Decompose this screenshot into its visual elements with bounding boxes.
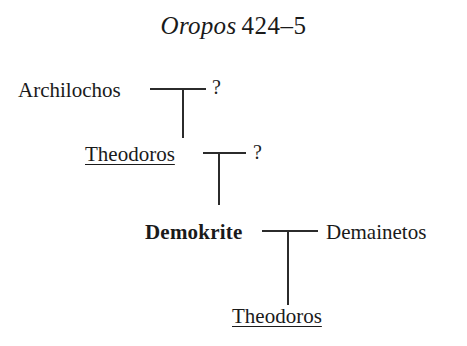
person-demainetos: Demainetos	[326, 219, 426, 245]
title-work-name: Oropos	[161, 12, 237, 39]
person-archilochos: Archilochos	[18, 77, 121, 103]
marriage-line-generation-1	[150, 88, 206, 90]
figure-title: Oropos424–5	[0, 11, 467, 41]
title-year-range: 424–5	[236, 12, 306, 39]
unknown-spouse-generation-1: ?	[212, 74, 221, 100]
descent-line-generation-2	[218, 152, 220, 205]
descent-line-generation-3	[287, 230, 289, 305]
marriage-line-generation-2	[203, 152, 246, 154]
person-theodoros-upper: Theodoros	[85, 141, 175, 167]
marriage-line-generation-3	[262, 230, 318, 232]
unknown-spouse-generation-2: ?	[253, 139, 262, 165]
genealogy-stemma-figure: Oropos424–5 Archilochos ? Theodoros ? De…	[0, 0, 467, 346]
person-theodoros-lower: Theodoros	[232, 303, 322, 329]
person-demokrite: Demokrite	[145, 219, 242, 245]
descent-line-generation-1	[182, 88, 184, 138]
